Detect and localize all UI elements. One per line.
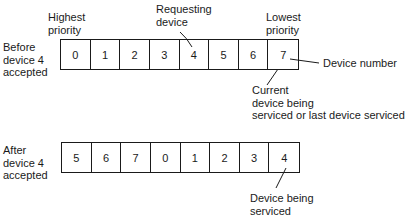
after-row-label: After device 4 accepted (3, 144, 48, 182)
after-cell: 7 (121, 143, 151, 172)
lowest-priority-label: Lowest priority (266, 11, 301, 36)
before-cell: 3 (150, 40, 180, 69)
before-cell: 2 (120, 40, 150, 69)
after-cell: 6 (92, 143, 122, 172)
highest-priority-label: Highest priority (48, 11, 85, 36)
device-number-label: Device number (323, 57, 397, 70)
before-cell: 5 (209, 40, 239, 69)
before-cell: 0 (61, 40, 91, 69)
after-cell: 0 (151, 143, 181, 172)
being-serviced-label: Device being serviced (250, 192, 314, 217)
current-device-leader-line (267, 69, 278, 85)
requesting-device-label: Requesting device (156, 3, 212, 28)
before-cell-requesting: 4 (180, 40, 210, 69)
before-priority-register: 0 1 2 3 4 5 6 7 (60, 39, 299, 70)
after-cell-serviced: 4 (269, 143, 299, 172)
after-cell: 1 (181, 143, 211, 172)
before-cell: 6 (239, 40, 269, 69)
after-priority-register: 5 6 7 0 1 2 3 4 (61, 142, 300, 173)
current-device-label: Current device being serviced or last de… (252, 84, 405, 122)
after-cell: 5 (62, 143, 92, 172)
after-cell: 2 (210, 143, 240, 172)
after-cell: 3 (240, 143, 270, 172)
before-cell-lowest: 7 (268, 40, 298, 69)
before-cell: 1 (91, 40, 121, 69)
before-row-label: Before device 4 accepted (3, 41, 48, 79)
